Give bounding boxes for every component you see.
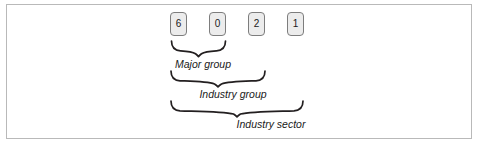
- label-industry-group: Industry group: [140, 88, 326, 100]
- brace-industry-sector: [171, 101, 303, 117]
- label-industry-sector: Industry sector: [140, 118, 402, 130]
- figure-root: 6 0 2 1 Major group Industry group Indus…: [0, 0, 479, 150]
- brace-major-group: [172, 41, 226, 57]
- brace-industry-group: [171, 71, 265, 87]
- label-major-group: Major group: [140, 58, 266, 70]
